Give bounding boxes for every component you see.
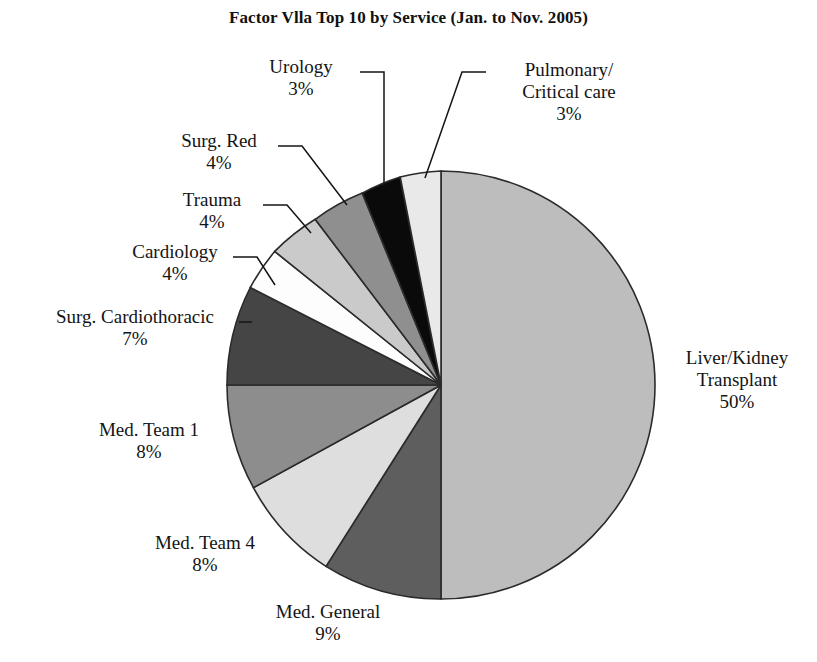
pie-label-liver-kidney-name: Liver/Kidney — [661, 347, 813, 369]
pie-label-pulmonary-name-2: Critical care — [489, 81, 649, 103]
pie-slices — [227, 171, 655, 599]
leader-line-urology — [360, 72, 384, 186]
pie-label-med-general-name: Med. General — [258, 601, 398, 623]
pie-label-med-team-4-percent: 8% — [140, 554, 270, 576]
pie-slice-liver-kidney-transplant[interactable] — [441, 171, 655, 599]
pie-label-trauma-name: Trauma — [162, 189, 262, 211]
pie-label-surg-cardiothoracic-name: Surg. Cardiothoracic — [32, 306, 238, 328]
pie-label-med-team-4-name: Med. Team 4 — [140, 532, 270, 554]
pie-label-liver-kidney-percent: 50% — [661, 391, 813, 413]
pie-label-trauma: Trauma 4% — [162, 189, 262, 233]
pie-label-pulmonary: Pulmonary/ Critical care 3% — [489, 59, 649, 125]
pie-label-cardiology-percent: 4% — [118, 263, 232, 285]
pie-label-trauma-percent: 4% — [162, 211, 262, 233]
pie-label-urology: Urology 3% — [246, 56, 356, 100]
pie-label-liver-kidney-name-2: Transplant — [661, 369, 813, 391]
chart-page: Factor Vlla Top 10 by Service (Jan. to N… — [0, 0, 817, 662]
pie-label-med-general-percent: 9% — [258, 623, 398, 645]
pie-label-med-team-1: Med. Team 1 8% — [84, 419, 214, 463]
pie-label-med-team-1-name: Med. Team 1 — [84, 419, 214, 441]
pie-label-surg-cardiothoracic-percent: 7% — [32, 328, 238, 350]
pie-label-urology-name: Urology — [246, 56, 356, 78]
pie-label-surg-red-name: Surg. Red — [161, 130, 277, 152]
pie-label-med-team-1-percent: 8% — [84, 441, 214, 463]
pie-label-surg-red-percent: 4% — [161, 152, 277, 174]
pie-label-med-general: Med. General 9% — [258, 601, 398, 645]
pie-label-liver-kidney-transplant: Liver/Kidney Transplant 50% — [661, 347, 813, 413]
pie-label-surg-cardiothoracic: Surg. Cardiothoracic 7% — [32, 306, 238, 350]
pie-label-urology-percent: 3% — [246, 78, 356, 100]
leader-line-surg-red — [278, 146, 347, 205]
pie-label-cardiology: Cardiology 4% — [118, 241, 232, 285]
pie-label-pulmonary-percent: 3% — [489, 103, 649, 125]
pie-label-surg-red: Surg. Red 4% — [161, 130, 277, 174]
leader-line-pulmonary — [425, 72, 486, 178]
pie-label-pulmonary-name: Pulmonary/ — [489, 59, 649, 81]
pie-label-med-team-4: Med. Team 4 8% — [140, 532, 270, 576]
pie-label-cardiology-name: Cardiology — [118, 241, 232, 263]
